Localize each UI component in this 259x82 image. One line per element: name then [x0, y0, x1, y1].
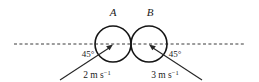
body-a-angle-label: 45°	[82, 49, 95, 59]
body-b-speed-exponent: −1	[172, 69, 179, 76]
body-a-speed-exponent: −1	[104, 69, 111, 76]
body-b-label: B	[147, 6, 154, 18]
body-b-angle-label: 45°	[169, 49, 182, 59]
body-b-speed-label: 3 m s−1	[151, 69, 179, 81]
diagram-canvas: A B 45° 45° 2 m s−1 3 m s−1	[0, 0, 259, 82]
body-a-speed-label: 2 m s−1	[83, 69, 111, 81]
body-a-label: A	[109, 6, 117, 18]
physics-diagram-figure: A B 45° 45° 2 m s−1 3 m s−1	[0, 0, 259, 82]
body-b-speed-text: 3 m s	[151, 70, 172, 80]
body-a-speed-text: 2 m s	[83, 70, 104, 80]
